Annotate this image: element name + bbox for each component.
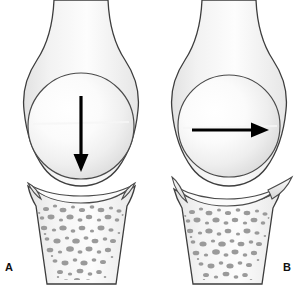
knee-joint-figure: A B	[0, 0, 298, 285]
figure-canvas	[0, 0, 298, 285]
panel-label-a: A	[5, 262, 13, 273]
panel-label-b: B	[283, 262, 291, 273]
panel-b	[172, 0, 292, 285]
tibial-spine-right-b	[268, 177, 292, 199]
panel-a	[24, 0, 139, 284]
